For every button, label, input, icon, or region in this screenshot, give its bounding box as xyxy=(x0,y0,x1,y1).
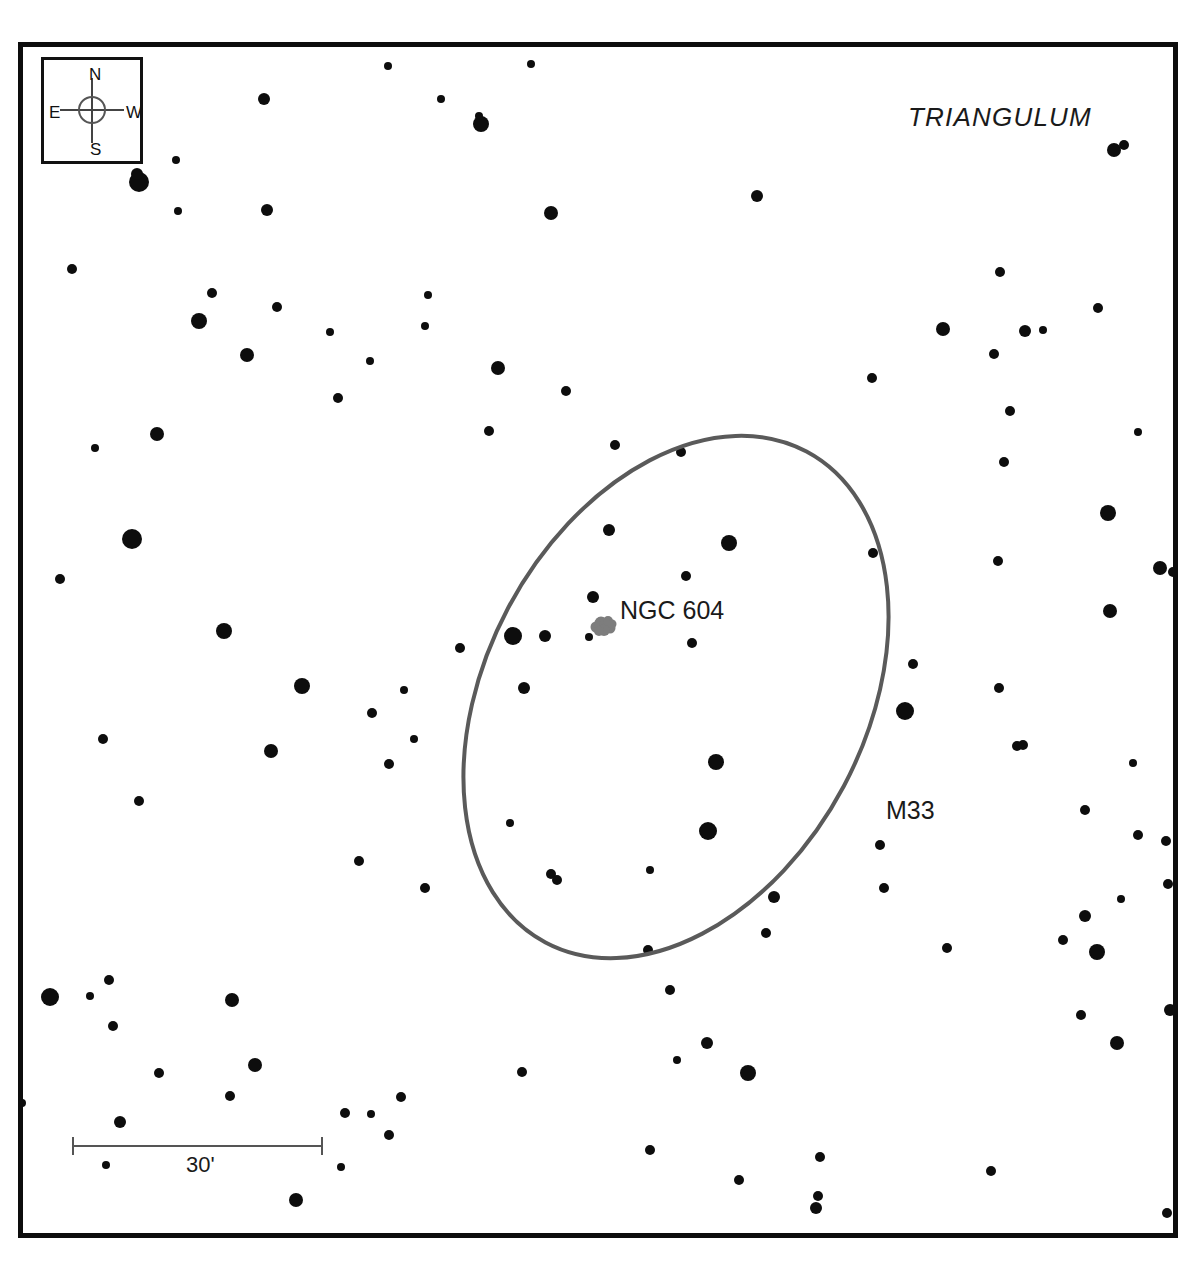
star-marker xyxy=(67,264,77,274)
sky-field xyxy=(23,47,1173,1233)
star-marker xyxy=(108,1021,118,1031)
star-marker xyxy=(561,386,571,396)
star-marker xyxy=(41,988,59,1006)
star-marker xyxy=(484,426,494,436)
star-marker xyxy=(261,204,273,216)
star-marker xyxy=(708,754,724,770)
star-marker xyxy=(437,95,445,103)
star-marker xyxy=(995,267,1005,277)
star-marker xyxy=(544,206,558,220)
star-marker xyxy=(91,444,99,452)
star-marker xyxy=(420,883,430,893)
star-marker xyxy=(225,993,239,1007)
star-marker xyxy=(1012,741,1022,751)
star-marker xyxy=(518,682,530,694)
star-marker xyxy=(55,574,65,584)
star-marker xyxy=(740,1065,756,1081)
scale-bar-label: 30' xyxy=(186,1152,215,1178)
star-marker xyxy=(813,1191,823,1201)
star-marker xyxy=(150,427,164,441)
star-marker xyxy=(384,62,392,70)
star-marker xyxy=(701,1037,713,1049)
star-marker xyxy=(761,928,771,938)
star-marker xyxy=(154,1068,164,1078)
star-marker xyxy=(131,168,143,180)
star-marker xyxy=(1133,830,1143,840)
star-marker xyxy=(207,288,217,298)
star-marker xyxy=(993,556,1003,566)
star-marker xyxy=(367,708,377,718)
star-marker xyxy=(645,1145,655,1155)
star-marker xyxy=(289,1193,303,1207)
star-marker xyxy=(1076,1010,1086,1020)
star-marker xyxy=(699,822,717,840)
star-marker xyxy=(1039,326,1047,334)
star-marker xyxy=(665,985,675,995)
star-marker xyxy=(1162,1208,1172,1218)
star-marker xyxy=(936,322,950,336)
compass-west-label: W xyxy=(126,104,142,121)
compass-south-label: S xyxy=(90,141,101,158)
star-marker xyxy=(1100,505,1116,521)
star-marker xyxy=(384,1130,394,1140)
star-marker xyxy=(326,328,334,336)
star-marker xyxy=(333,393,343,403)
star-field-svg xyxy=(23,47,1173,1233)
star-marker xyxy=(868,548,878,558)
nebula-blob-part xyxy=(594,626,604,636)
star-marker xyxy=(248,1058,262,1072)
star-marker xyxy=(102,1161,110,1169)
compass-north-label: N xyxy=(89,66,101,83)
star-marker xyxy=(354,856,364,866)
star-marker xyxy=(539,630,551,642)
star-marker xyxy=(366,357,374,365)
stars-group xyxy=(23,60,1173,1218)
star-marker xyxy=(104,975,114,985)
star-marker xyxy=(367,1110,375,1118)
star-marker xyxy=(1119,140,1129,150)
star-marker xyxy=(455,643,465,653)
star-marker xyxy=(879,883,889,893)
star-marker xyxy=(989,349,999,359)
nebula-blob-part xyxy=(608,620,617,629)
star-marker xyxy=(908,659,918,669)
star-marker xyxy=(552,875,562,885)
star-marker xyxy=(673,1056,681,1064)
star-marker xyxy=(337,1163,345,1171)
star-marker xyxy=(504,627,522,645)
star-marker xyxy=(421,322,429,330)
star-marker xyxy=(400,686,408,694)
star-marker xyxy=(258,93,270,105)
star-marker xyxy=(172,156,180,164)
star-marker xyxy=(585,633,593,641)
star-marker xyxy=(734,1175,744,1185)
m33-object-label: M33 xyxy=(886,796,935,825)
star-marker xyxy=(646,866,654,874)
star-marker xyxy=(1107,143,1121,157)
star-marker xyxy=(294,678,310,694)
star-marker xyxy=(527,60,535,68)
star-marker xyxy=(994,683,1004,693)
star-marker xyxy=(225,1091,235,1101)
star-marker xyxy=(114,1116,126,1128)
star-marker xyxy=(340,1108,350,1118)
ngc604-object-label: NGC 604 xyxy=(620,596,724,625)
star-marker xyxy=(768,891,780,903)
star-marker xyxy=(410,735,418,743)
star-marker xyxy=(424,291,432,299)
star-marker xyxy=(1129,759,1137,767)
compass-rose: N S E W xyxy=(41,57,143,164)
star-marker xyxy=(1163,879,1173,889)
star-marker xyxy=(867,373,877,383)
compass-east-label: E xyxy=(49,104,60,121)
ngc604-nebula-group xyxy=(591,616,617,636)
star-chart-root: N S E W TRIANGULUM NGC 604 M33 30' xyxy=(0,0,1199,1263)
constellation-name-label: TRIANGULUM xyxy=(908,102,1092,133)
star-marker xyxy=(1005,406,1015,416)
star-marker xyxy=(1161,836,1171,846)
star-marker xyxy=(875,840,885,850)
star-marker xyxy=(1117,895,1125,903)
star-marker xyxy=(122,529,142,549)
star-marker xyxy=(1168,567,1173,577)
star-marker xyxy=(491,361,505,375)
